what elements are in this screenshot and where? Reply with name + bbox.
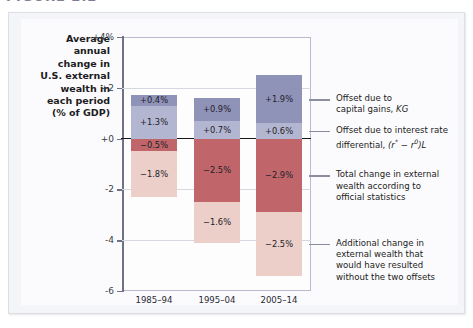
y-axis-tick xyxy=(117,37,122,38)
y-axis-tick xyxy=(117,189,122,190)
bar-segment-add: −1.6% xyxy=(194,202,240,243)
y-axis-title-line: U.S. external xyxy=(22,70,110,82)
bar-value-label: −1.8% xyxy=(140,169,168,179)
annotation-line: wealth according to xyxy=(336,181,439,192)
y-axis-tick-label: -6 xyxy=(105,286,114,296)
annotation-line: official statistics xyxy=(336,192,439,203)
bar-segment-total: −2.9% xyxy=(256,139,302,213)
annotation-line: would have resulted xyxy=(336,260,435,271)
bar-segment-kg: +0.9% xyxy=(194,98,240,121)
annotation-line: Additional change in xyxy=(336,238,435,249)
y-axis-title-line: each period xyxy=(22,95,110,107)
y-axis-tick xyxy=(117,291,122,292)
annotation-line: Offset due to xyxy=(336,93,408,104)
y-axis-tick-label: +0 xyxy=(101,134,114,144)
bar-segment-total: −0.5% xyxy=(131,139,177,152)
y-axis-title-line: change in xyxy=(22,58,110,70)
bar-value-label: −2.9% xyxy=(265,170,293,180)
annotation-line: external wealth that xyxy=(336,249,435,260)
y-axis-title-line: (% of GDP) xyxy=(22,107,110,119)
bar-segment-ir: +0.6% xyxy=(256,123,302,138)
annotation-add: Additional change inexternal wealth that… xyxy=(336,238,435,283)
y-axis-tick xyxy=(117,88,122,89)
bar-value-label: +1.3% xyxy=(140,117,168,127)
annotation-total: Total change in externalwealth according… xyxy=(336,169,439,203)
bar-value-label: +1.9% xyxy=(265,94,293,104)
y-axis-title-line: wealth in xyxy=(22,83,110,95)
bar-segment-add: −2.5% xyxy=(256,212,302,276)
figure-caption-text: FIGURE 2.2 xyxy=(6,0,97,4)
annotation-leader-line xyxy=(309,131,330,132)
x-axis-tick-label: 1995–04 xyxy=(194,295,240,305)
x-axis-tick-label: 1985–94 xyxy=(131,295,177,305)
y-axis-line xyxy=(122,36,124,292)
bar-segment-kg: +1.9% xyxy=(256,75,302,123)
bar-value-label: +0.7% xyxy=(203,125,231,135)
y-axis-title-line: annual xyxy=(22,45,110,57)
y-axis-tick xyxy=(117,240,122,241)
annotation-leader-line xyxy=(309,244,330,245)
annotation-line: without the two offsets xyxy=(336,272,435,283)
y-axis-title: Averageannualchange inU.S. externalwealt… xyxy=(22,33,110,120)
bar-segment-add: −1.8% xyxy=(131,151,177,197)
y-axis-tick-label: +4% xyxy=(92,32,114,42)
bar-value-label: +0.6% xyxy=(265,126,293,136)
bar-group: +0.9%+0.7%−2.5%−1.6% xyxy=(194,37,240,291)
bar-segment-ir: +1.3% xyxy=(131,106,177,139)
figure-caption: FIGURE 2.2 xyxy=(6,0,156,7)
bar-group: +1.9%+0.6%−2.9%−2.5% xyxy=(256,37,302,291)
annotation-leader-line xyxy=(309,175,330,176)
bar-value-label: −2.5% xyxy=(265,239,293,249)
y-axis-tick-label: -4 xyxy=(105,235,114,245)
annotation-line: Offset due to interest rate xyxy=(336,125,448,136)
annotation-line: capital gains, KG xyxy=(336,104,408,115)
bar-value-label: −2.5% xyxy=(203,165,231,175)
bar-value-label: +0.4% xyxy=(140,95,168,105)
bar-segment-total: −2.5% xyxy=(194,139,240,203)
annotation-kg: Offset due tocapital gains, KG xyxy=(336,93,408,115)
annotation-leader-line xyxy=(309,99,330,100)
y-axis-tick-label: +2 xyxy=(101,83,114,93)
plot-area: +4%+2+0-2-4-6 +0.4%+1.3%−0.5%−1.8%+0.9%+… xyxy=(122,37,311,291)
annotation-line: Total change in external xyxy=(336,169,439,180)
y-axis-tick-label: -2 xyxy=(105,184,114,194)
bar-segment-kg: +0.4% xyxy=(131,95,177,105)
x-axis-tick-label: 2005–14 xyxy=(256,295,302,305)
bar-group: +0.4%+1.3%−0.5%−1.8% xyxy=(131,37,177,291)
bar-segment-ir: +0.7% xyxy=(194,121,240,139)
y-axis-tick xyxy=(117,139,122,140)
bar-value-label: −0.5% xyxy=(140,140,168,150)
figure-root: FIGURE 2.2 Averageannualchange inU.S. ex… xyxy=(0,0,473,328)
annotation-line: differential, (r* − r0)L xyxy=(336,136,448,151)
annotation-ir: Offset due to interest ratedifferential,… xyxy=(336,125,448,151)
bar-value-label: +0.9% xyxy=(203,104,231,114)
bar-value-label: −1.6% xyxy=(203,217,231,227)
